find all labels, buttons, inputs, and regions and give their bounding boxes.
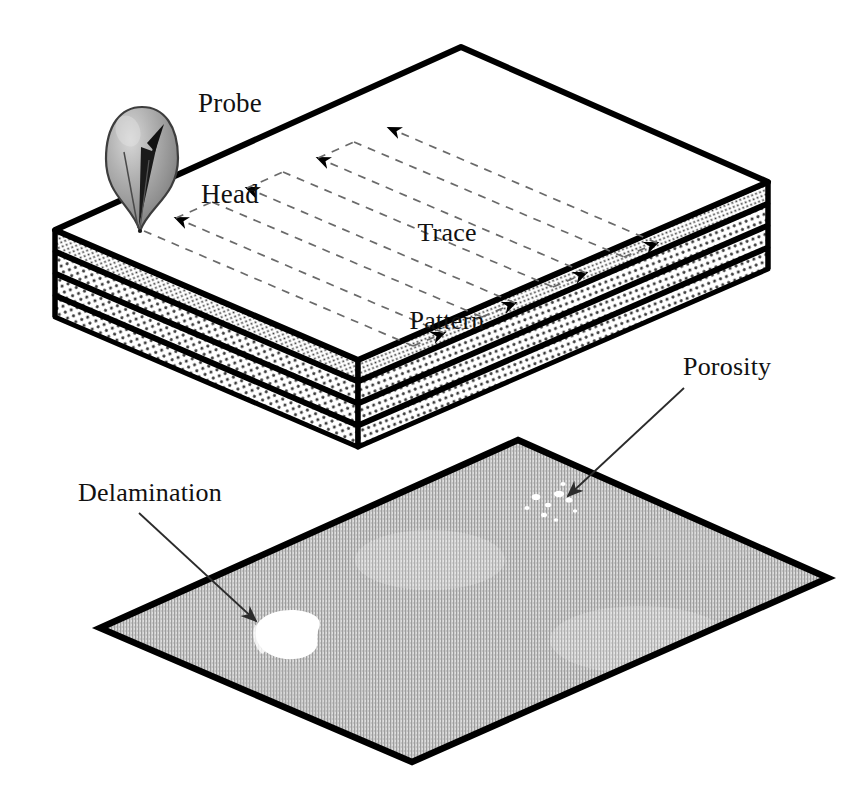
label-trace-pattern: Trace Pattern	[388, 160, 506, 393]
probe-contact-point	[138, 229, 142, 233]
technical-diagram-canvas	[0, 0, 867, 796]
label-porosity: Porosity	[683, 352, 771, 381]
label-probe-head-line2: Head	[160, 179, 300, 209]
porosity-leader-line	[568, 388, 684, 496]
label-delamination: Delamination	[78, 478, 222, 507]
figure-root: Probe Head Trace Pattern Porosity Delami…	[0, 0, 867, 796]
label-trace-pattern-line2: Pattern	[388, 306, 506, 335]
label-trace-pattern-line1: Trace	[388, 218, 506, 247]
label-probe-head: Probe Head	[160, 28, 300, 270]
label-probe-head-line1: Probe	[160, 88, 300, 118]
